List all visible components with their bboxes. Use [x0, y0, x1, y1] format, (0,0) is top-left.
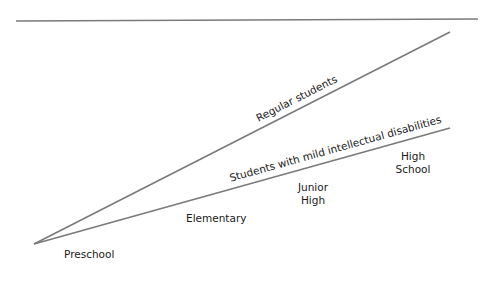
stage-label: Preschool: [64, 248, 114, 261]
stage-label: Elementary: [186, 212, 246, 225]
stage-elementary: Elementary: [186, 212, 246, 225]
top-ceiling-line: [16, 19, 478, 21]
mild-disabilities-line: [34, 128, 450, 244]
stage-high-school: High School: [390, 150, 436, 176]
stage-label-line2: High: [294, 194, 332, 207]
stage-label-line1: Junior: [294, 181, 332, 194]
stage-junior-high: Junior High: [294, 181, 332, 207]
stage-label-line2: School: [390, 163, 436, 176]
stage-preschool: Preschool: [64, 248, 114, 261]
stage-label-line1: High: [390, 150, 436, 163]
